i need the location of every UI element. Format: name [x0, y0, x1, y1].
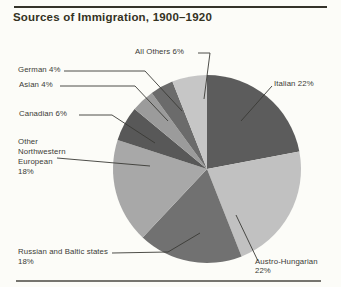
slice-label-other-northwestern-european: Other Northwestern European 18%: [18, 137, 66, 177]
slice-label-austro-hungarian: Austro-Hungarian 22%: [255, 257, 318, 275]
bottom-rule: [16, 280, 321, 282]
slice-label-italian: Italian 22%: [274, 79, 314, 89]
slice-label-russian-and-baltic-states: Russian and Baltic states 18%: [18, 247, 108, 267]
slice-label-asian: Asian 4%: [19, 80, 53, 90]
slice-label-german: German 4%: [18, 65, 61, 75]
figure: Sources of Immigration, 1900–1920 All Ot…: [0, 0, 341, 287]
slice-label-canadian: Canadian 6%: [19, 109, 67, 119]
slice-label-all-others: All Others 6%: [135, 47, 184, 57]
